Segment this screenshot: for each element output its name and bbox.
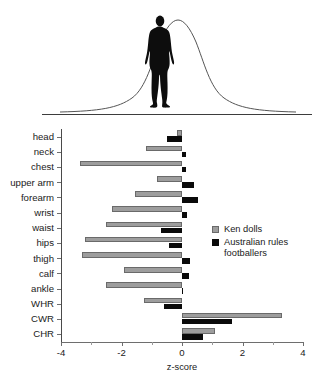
bar-footballers	[182, 167, 186, 173]
bar-row	[61, 266, 303, 281]
chart-legend: Ken dolls Australian rules footballers	[212, 224, 315, 261]
bar-ken-dolls	[80, 161, 182, 167]
bar-footballers	[182, 258, 190, 264]
bar-row	[61, 327, 303, 342]
y-axis-label: CWR	[0, 311, 57, 326]
y-axis-label: neck	[0, 144, 57, 159]
bar-footballers	[182, 152, 186, 158]
x-axis-minor-tick	[212, 342, 213, 345]
legend-item-footballers: Australian rules footballers	[212, 237, 315, 259]
bar-ken-dolls	[135, 191, 182, 197]
bar-row	[61, 205, 303, 220]
bar-row	[61, 175, 303, 190]
legend-item-ken-dolls: Ken dolls	[212, 224, 315, 235]
y-axis-label: head	[0, 129, 57, 144]
x-axis-tick	[61, 342, 62, 346]
y-axis-label: calf	[0, 266, 57, 281]
bar-row	[61, 129, 303, 144]
bar-footballers	[182, 273, 189, 279]
y-axis-label: thigh	[0, 251, 57, 266]
bar-row	[61, 296, 303, 311]
bar-ken-dolls	[124, 267, 182, 273]
x-axis-tick	[182, 342, 183, 346]
bar-ken-dolls	[182, 328, 215, 334]
x-axis-tick	[243, 342, 244, 346]
figure-root: headneckchestupper armforearmwristwaisth…	[0, 0, 315, 388]
bar-row	[61, 190, 303, 205]
top-panel-distribution	[0, 0, 315, 126]
bar-footballers	[182, 288, 183, 294]
y-axis-label: waist	[0, 220, 57, 235]
bar-footballers	[167, 136, 182, 142]
y-axis-label: chest	[0, 159, 57, 174]
y-axis-label: forearm	[0, 190, 57, 205]
y-axis-label: CHR	[0, 326, 57, 341]
bar-footballers	[182, 319, 232, 325]
y-axis-label: ankle	[0, 281, 57, 296]
legend-label-footballers: Australian rules footballers	[224, 237, 315, 259]
bar-ken-dolls	[144, 298, 182, 304]
bar-footballers	[182, 334, 203, 340]
bar-footballers	[164, 304, 182, 310]
bar-ken-dolls	[85, 237, 182, 243]
x-axis-tick-label: 4	[288, 347, 315, 358]
bar-ken-dolls	[146, 146, 182, 152]
bar-footballers	[182, 197, 198, 203]
legend-swatch-footballers	[212, 239, 219, 246]
y-axis-label: upper arm	[0, 175, 57, 190]
bar-chart-panel: headneckchestupper armforearmwristwaisth…	[0, 126, 315, 388]
x-axis-minor-tick	[91, 342, 92, 345]
bar-row	[61, 144, 303, 159]
bar-footballers	[182, 212, 187, 218]
bar-row	[61, 159, 303, 174]
legend-label-ken-dolls: Ken dolls	[224, 224, 262, 235]
bar-row	[61, 311, 303, 326]
bar-ken-dolls	[106, 282, 182, 288]
bar-ken-dolls	[182, 313, 282, 319]
x-axis-tick-label: 2	[228, 347, 258, 358]
x-axis-tick-label: -4	[46, 347, 76, 358]
bar-ken-dolls	[106, 222, 182, 228]
x-axis-minor-tick	[152, 342, 153, 345]
bar-ken-dolls	[82, 252, 182, 258]
y-axis-label: WHR	[0, 296, 57, 311]
x-axis-tick-label: 0	[167, 347, 197, 358]
x-axis-minor-tick	[273, 342, 274, 345]
x-axis-title: z-score	[61, 362, 303, 372]
legend-swatch-ken-dolls	[212, 226, 219, 233]
bar-row	[61, 281, 303, 296]
bar-ken-dolls	[112, 206, 182, 212]
bar-ken-dolls	[157, 176, 182, 182]
bar-footballers	[182, 182, 194, 188]
x-axis-tick-label: -2	[107, 347, 137, 358]
y-axis-label: hips	[0, 235, 57, 250]
x-axis-tick	[303, 342, 304, 346]
y-axis-labels: headneckchestupper armforearmwristwaisth…	[0, 129, 57, 342]
y-axis-label: wrist	[0, 205, 57, 220]
bar-ken-dolls	[177, 130, 182, 136]
bar-footballers	[169, 243, 182, 249]
x-axis-tick	[122, 342, 123, 346]
male-body-silhouette	[140, 14, 180, 114]
bar-footballers	[161, 228, 182, 234]
